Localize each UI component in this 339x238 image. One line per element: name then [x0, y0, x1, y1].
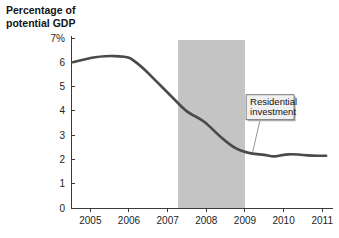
- y-tick-label: 6: [59, 57, 65, 68]
- y-tick-label: 0: [59, 203, 65, 214]
- chart-title-line2: potential GDP: [6, 17, 75, 29]
- chart-title-line1: Percentage of: [6, 4, 76, 16]
- x-ticks-group: 2005200620072008200920102011: [79, 208, 333, 226]
- callout-leader-line: [253, 120, 260, 152]
- x-tick-label: 2011: [312, 215, 334, 226]
- y-tick-label: 5: [59, 81, 65, 92]
- x-tick-label: 2005: [79, 215, 102, 226]
- y-tick-label: 2: [59, 154, 65, 165]
- x-tick-label: 2009: [234, 215, 257, 226]
- y-tick-label: 4: [59, 105, 65, 116]
- x-tick-label: 2010: [272, 215, 295, 226]
- x-tick-label: 2007: [157, 215, 180, 226]
- y-tick-label: 7%: [51, 33, 66, 44]
- residential-investment-line-chart: 7%6543210 2005200620072008200920102011 R…: [0, 0, 339, 238]
- y-tick-label: 3: [59, 130, 65, 141]
- annotations-group: Residentialinvestment: [246, 95, 297, 152]
- callout-label-line2: investment: [250, 106, 296, 117]
- recession-band: [178, 40, 245, 208]
- chart-container: 7%6543210 2005200620072008200920102011 R…: [0, 0, 339, 238]
- shaded-regions: [178, 40, 245, 208]
- x-tick-label: 2008: [195, 215, 218, 226]
- x-tick-label: 2006: [118, 215, 141, 226]
- y-tick-label: 1: [59, 178, 65, 189]
